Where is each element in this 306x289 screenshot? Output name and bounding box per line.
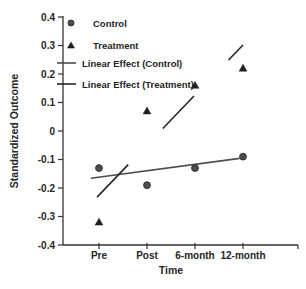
y-tick-label: 0.3 bbox=[41, 40, 55, 51]
y-tick-label: -0.4 bbox=[38, 240, 56, 251]
treatment-point bbox=[239, 64, 247, 71]
treatment-point bbox=[95, 218, 103, 225]
control-fit-line bbox=[91, 158, 240, 178]
x-tick-label: Post bbox=[136, 250, 158, 261]
x-axis-title: Time bbox=[159, 264, 183, 276]
chart-figure: 0.40.30.20.10-0.1-0.2-0.3-0.4PrePost6-mo… bbox=[0, 0, 306, 289]
legend-label: Treatment bbox=[93, 40, 139, 51]
legend-label: Control bbox=[93, 18, 127, 29]
x-tick-label: Pre bbox=[91, 250, 108, 261]
y-tick-label: 0 bbox=[49, 126, 55, 137]
legend-label: Linear Effect (Treatment) bbox=[82, 79, 194, 90]
y-tick-label: -0.2 bbox=[38, 183, 56, 194]
y-tick-label: 0.4 bbox=[41, 12, 55, 23]
control-point bbox=[240, 153, 247, 160]
control-point bbox=[192, 165, 199, 172]
legend-label: Linear Effect (Control) bbox=[82, 58, 182, 69]
control-point bbox=[144, 182, 151, 189]
x-tick-label: 12-month bbox=[221, 250, 266, 261]
y-tick-label: -0.1 bbox=[38, 154, 56, 165]
x-tick-label: 6-month bbox=[175, 250, 214, 261]
control-point bbox=[96, 165, 103, 172]
y-axis-title: Standardized Outcome bbox=[8, 74, 20, 188]
y-tick-label: 0.1 bbox=[41, 97, 55, 108]
y-tick-label: 0.2 bbox=[41, 69, 55, 80]
treatment-point bbox=[143, 107, 151, 114]
legend-circle-key bbox=[68, 20, 74, 26]
plot-area: 0.40.30.20.10-0.1-0.2-0.3-0.4PrePost6-mo… bbox=[0, 0, 306, 289]
y-tick-label: -0.3 bbox=[38, 211, 56, 222]
legend-triangle-key bbox=[68, 42, 75, 48]
